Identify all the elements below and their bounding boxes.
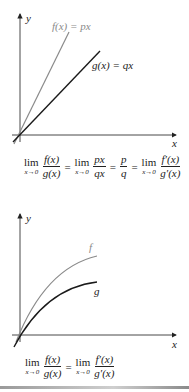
- g-curve: [14, 282, 97, 347]
- fraction: f′(x)g′(x): [160, 154, 180, 179]
- figure1-f-label: f(x) = px: [52, 21, 91, 32]
- limit-operator: limx→0: [24, 157, 39, 176]
- figure1-formula: limx→0 f(x)g(x) = limx→0 pxqx = pq = lim…: [22, 154, 182, 179]
- limit-operator: limx→0: [25, 357, 40, 376]
- figure1-y-label: y: [26, 13, 31, 24]
- figure2-y-label: y: [26, 213, 31, 224]
- figure2-f-label: f: [89, 242, 92, 253]
- figure2-formula: limx→0 f(x)g(x) = limx→0 f′(x)g′(x): [23, 354, 116, 379]
- limit-operator: limx→0: [75, 157, 90, 176]
- figure2-g-label: g: [94, 286, 100, 297]
- fraction: f(x)g(x): [44, 354, 62, 379]
- fraction: f′(x)g′(x): [94, 354, 114, 379]
- limit-operator: limx→0: [142, 157, 157, 176]
- limit-operator: limx→0: [76, 357, 91, 376]
- fraction: pq: [120, 154, 128, 179]
- figure2-x-label: x: [172, 339, 177, 350]
- f-line: [14, 32, 69, 144]
- f-curve: [16, 256, 97, 342]
- fraction: f(x)g(x): [43, 154, 61, 179]
- figure1-g-label: g(x) = qx: [92, 60, 133, 71]
- figure1-x-label: x: [172, 138, 177, 149]
- g-line: [13, 51, 100, 142]
- fraction: pxqx: [93, 154, 105, 179]
- bottom-divider: [0, 386, 189, 389]
